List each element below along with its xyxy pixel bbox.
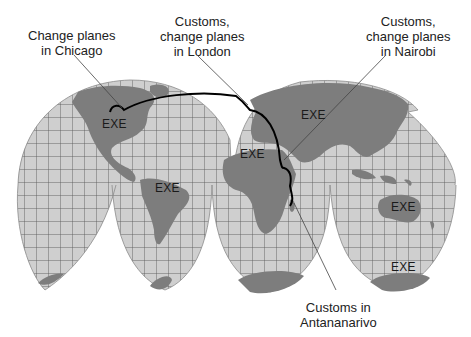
label-australia: EXE [391,200,416,214]
label-asia: EXE [301,108,326,122]
callout-nairobi: Customs, change planes in Nairobi [366,14,451,59]
label-south-america: EXE [155,181,180,195]
label-antarctica: EXE [391,260,416,274]
label-north-america: EXE [102,117,127,131]
callout-antananarivo: Customs in Antananarivo [300,300,377,330]
callout-london: Customs, change planes in London [160,14,245,59]
label-africa: EXE [240,147,265,161]
callout-chicago: Change planes in Chicago [28,28,115,58]
